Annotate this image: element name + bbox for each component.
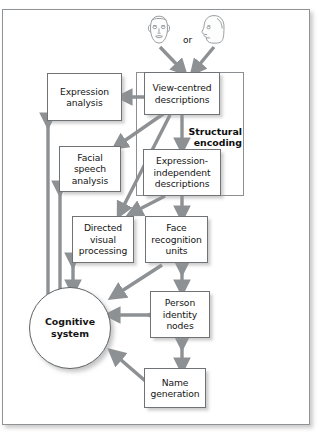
node-cognitive-system-line1: Cognitive [45, 316, 95, 327]
node-expression-independent-line1: Expression- [152, 155, 213, 166]
or-label: or [183, 35, 192, 45]
edge-face-profile-to-view-centred [194, 47, 214, 71]
node-view-centred-line2: descriptions [150, 94, 213, 105]
node-cognitive-system-line2: system [51, 328, 89, 339]
edge-face-front-to-view-centred [160, 47, 183, 71]
node-person-identity-line2: identity [161, 309, 199, 320]
node-expression-independent-line3: descriptions [152, 178, 213, 189]
node-expression-analysis-line1: Expression [58, 86, 111, 97]
node-directed-visual-line2: visual [77, 234, 130, 245]
structural-encoding-label: Structural encoding [180, 126, 242, 149]
node-name-generation-line1: Name [149, 377, 202, 388]
node-expression-independent-line2: independent [152, 167, 213, 178]
node-face-recognition-line2: recognition [149, 234, 204, 245]
node-cognitive-system[interactable]: Cognitive system [29, 287, 111, 369]
node-face-recognition-units[interactable]: Face recognition units [145, 216, 208, 263]
node-facial-speech-line2: speech [70, 163, 110, 174]
node-expression-independent-descriptions[interactable]: Expression- independent descriptions [143, 149, 221, 196]
node-facial-speech-analysis[interactable]: Facial speech analysis [59, 146, 121, 192]
node-person-identity-nodes[interactable]: Person identity nodes [150, 291, 210, 338]
node-person-identity-line3: nodes [161, 320, 199, 331]
node-view-centred-line1: View-centred [150, 82, 213, 93]
node-name-generation-line2: generation [149, 388, 202, 399]
face-front-icon [141, 12, 177, 48]
diagram-root: Structural encoding [0, 0, 328, 441]
node-view-centred-descriptions[interactable]: View-centred descriptions [144, 72, 220, 115]
node-facial-speech-line1: Facial [70, 152, 110, 163]
edge-expression-independent-to-directed-visual [132, 196, 165, 213]
node-face-recognition-line1: Face [149, 222, 204, 233]
node-directed-visual-line3: processing [77, 245, 130, 256]
structural-encoding-label-line1: Structural [189, 126, 242, 137]
node-directed-visual-line1: Directed [77, 222, 130, 233]
node-expression-analysis-line2: analysis [58, 97, 111, 108]
node-face-recognition-line3: units [149, 245, 204, 256]
node-name-generation[interactable]: Name generation [144, 368, 206, 408]
face-profile-icon [197, 12, 233, 48]
node-person-identity-line1: Person [161, 297, 199, 308]
node-expression-analysis[interactable]: Expression analysis [47, 73, 122, 121]
structural-encoding-label-line2: encoding [194, 137, 242, 148]
node-directed-visual-processing[interactable]: Directed visual processing [72, 216, 134, 263]
node-facial-speech-line3: analysis [70, 175, 110, 186]
